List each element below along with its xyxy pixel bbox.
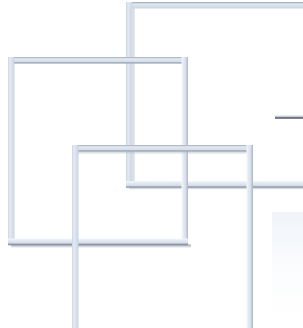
graphic-canvas: Abstract Overlapping Squares Decorative … [0, 0, 303, 328]
square-lower-middle [72, 145, 253, 328]
overlapping-squares-illustration [0, 0, 303, 328]
square-top-right [126, 2, 303, 190]
right-edge-rule [275, 116, 303, 119]
right-tint-panel [272, 212, 303, 328]
